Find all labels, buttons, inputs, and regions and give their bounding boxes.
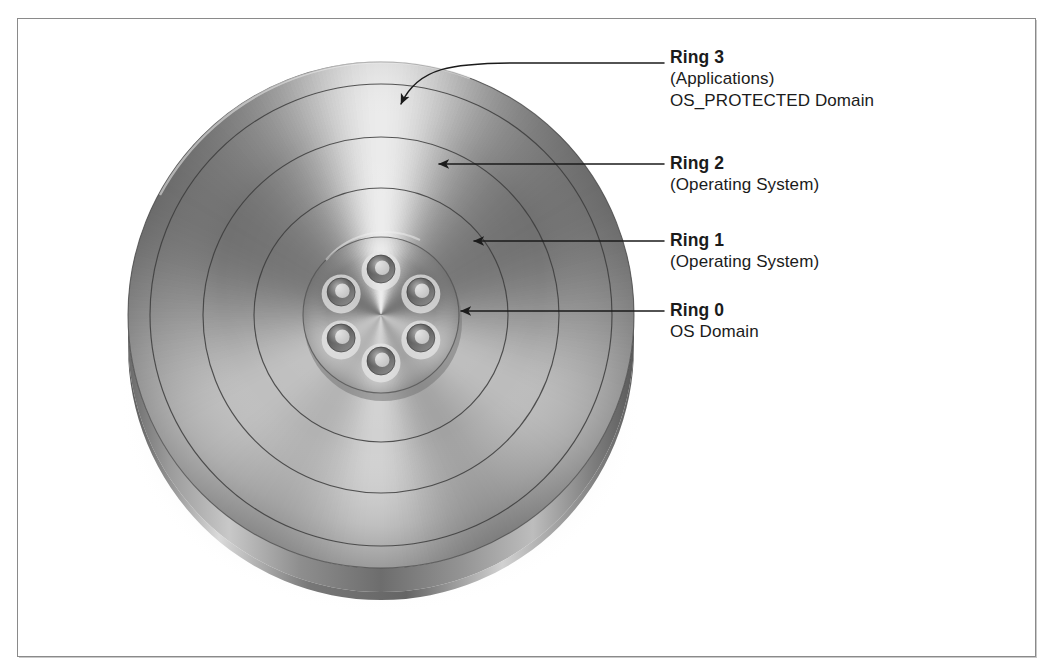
label-ring-3-line-2: OS_PROTECTED Domain: [670, 90, 874, 112]
label-ring-1: Ring 1 (Operating System): [670, 229, 819, 273]
bolt-hole: [362, 252, 401, 291]
label-ring-0: Ring 0 OS Domain: [670, 299, 759, 343]
label-ring-0-title: Ring 0: [670, 299, 759, 321]
protection-rings-diagram: [0, 0, 1047, 670]
label-ring-1-title: Ring 1: [670, 229, 819, 251]
label-ring-3-title: Ring 3: [670, 46, 874, 68]
figure-root: Ring 3 (Applications) OS_PROTECTED Domai…: [0, 0, 1047, 670]
label-ring-3: Ring 3 (Applications) OS_PROTECTED Domai…: [670, 46, 874, 112]
bolt-hole: [362, 344, 401, 383]
label-ring-2-title: Ring 2: [670, 152, 819, 174]
bolt-hole: [322, 321, 361, 360]
label-ring-2-line-1: (Operating System): [670, 174, 819, 196]
bolt-hole: [401, 275, 440, 314]
label-ring-3-line-1: (Applications): [670, 68, 874, 90]
label-ring-2: Ring 2 (Operating System): [670, 152, 819, 196]
label-ring-1-line-1: (Operating System): [670, 251, 819, 273]
label-ring-0-line-1: OS Domain: [670, 321, 759, 343]
bolt-hole: [322, 275, 361, 314]
bolt-hole: [401, 321, 440, 360]
